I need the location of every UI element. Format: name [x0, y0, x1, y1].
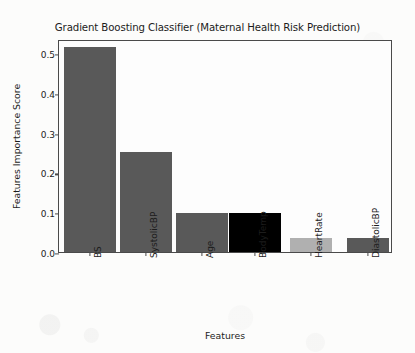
chart-figure: Gradient Boosting Classifier (Maternal H… [0, 0, 415, 353]
x-tick-label: SystolicBP [149, 212, 159, 258]
x-tick-mark [201, 252, 202, 256]
x-tick-mark [254, 252, 255, 256]
y-tick-label: 0.4 [31, 90, 55, 100]
x-tick-mark [310, 252, 311, 256]
bar-bodytemp [229, 213, 281, 252]
y-tick-label: 0.5 [31, 50, 55, 60]
bar-bs [64, 47, 116, 252]
y-axis-label-text: Features Importance Score [12, 84, 23, 209]
chart-title: Gradient Boosting Classifier (Maternal H… [0, 22, 415, 33]
x-tick-label: DiastolicBP [371, 208, 381, 258]
y-tick-mark [55, 253, 59, 254]
x-tick-mark [89, 252, 90, 256]
x-tick-label: BS [93, 246, 103, 258]
x-tick-label: Age [205, 241, 215, 258]
y-tick-label: 0.1 [31, 209, 55, 219]
y-tick-label: 0.0 [31, 249, 55, 259]
x-tick-label: HeartRate [314, 212, 324, 258]
bars-layer [59, 41, 391, 252]
bar-age [176, 213, 228, 252]
bar-systolicbp [120, 152, 172, 252]
y-axis-label: Features Importance Score [9, 40, 25, 253]
bar-diastolicbp [347, 238, 389, 252]
plot-area: 0.00.10.20.30.40.5 [58, 40, 392, 253]
x-tick-label: BodyTemp [258, 211, 268, 258]
y-tick-label: 0.3 [31, 130, 55, 140]
x-tick-mark [367, 252, 368, 256]
y-tick-label: 0.2 [31, 169, 55, 179]
x-tick-mark [145, 252, 146, 256]
bar-heartrate [290, 238, 332, 252]
x-axis-label: Features [58, 330, 392, 341]
